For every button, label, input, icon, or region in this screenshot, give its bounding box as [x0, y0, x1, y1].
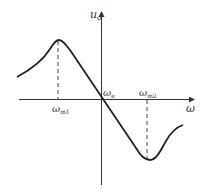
- peak-label: ωm1: [52, 103, 70, 115]
- x-axis-label: ω: [186, 102, 195, 115]
- origin-label: ωe: [103, 87, 115, 99]
- trough-label: ωm2: [139, 87, 157, 99]
- y-axis-label: uo: [90, 8, 101, 22]
- discriminator-curve-diagram: uo ω ωe ωm1 ωm2: [0, 0, 209, 193]
